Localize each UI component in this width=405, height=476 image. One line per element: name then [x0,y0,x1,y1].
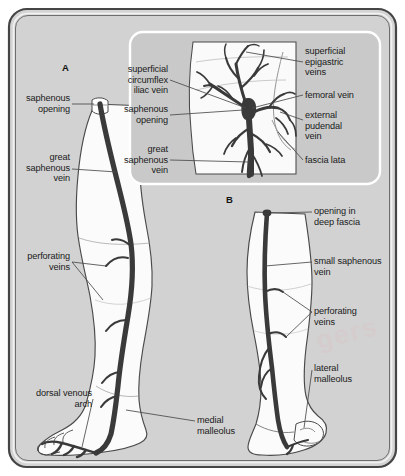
label-great-saphenous-vein-a: great saphenous vein [4,152,70,184]
label-dorsal-venous-arch: dorsal venous arch [22,388,92,409]
label-inset-great-saphenous-vein: great saphenous vein [104,144,168,176]
label-perforating-veins-a: perforating veins [4,251,70,272]
inset-great-saphenous-vein [249,150,251,176]
label-femoral-vein: femoral vein [305,90,377,101]
panel-letter-a: A [62,62,69,73]
label-superficial-epigastric-veins: superficial epigastric veins [305,46,375,78]
label-medial-malleolus: medial malleolus [197,415,259,436]
label-saphenous-opening-a: saphenous opening [4,93,70,114]
panel-letter-b: B [226,194,233,205]
label-perforating-veins-b: perforating veins [314,306,388,327]
inset-saphenous-opening [241,98,256,120]
label-opening-in-deep-fascia: opening in deep fascia [314,206,386,227]
label-superficial-circumflex-iliac-vein: superficial circumflex iliac vein [104,64,168,96]
label-inset-saphenous-opening: saphenous opening [104,104,168,125]
label-external-pudendal-vein: external pudendal vein [305,110,371,142]
label-small-saphenous-vein: small saphenous vein [314,256,396,277]
label-fascia-lata: fascia lata [305,155,377,166]
anatomy-figure: A B saphenous opening great saphenous ve… [0,0,405,476]
label-lateral-malleolus: lateral malleolus [314,363,380,384]
